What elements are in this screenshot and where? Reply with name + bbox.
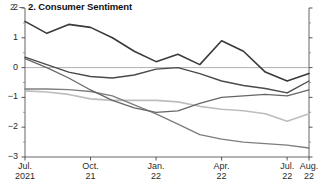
- x-tick-label: Jul.2021: [5, 161, 45, 181]
- series-line-series-5: [25, 91, 309, 121]
- series-line-series-3: [25, 59, 309, 113]
- chart-axes: [22, 8, 313, 161]
- x-tick-label-year: 22: [202, 171, 242, 181]
- chart-series: [25, 21, 309, 148]
- series-line-series-4: [25, 89, 309, 148]
- y-tick-label: 0: [2, 63, 18, 72]
- x-tick-label-month: Apr.: [202, 161, 242, 171]
- series-line-series-2: [25, 57, 309, 93]
- x-tick-label: Oct.21: [71, 161, 111, 181]
- x-tick-label: Aug.22: [289, 161, 319, 181]
- chart-panel: 2 – 2. Consumer Sentiment 210−1−2−3 Jul.…: [0, 0, 319, 193]
- x-tick-label: Apr.22: [202, 161, 242, 181]
- x-tick-label-month: Oct.: [71, 161, 111, 171]
- x-tick-label-month: Jul.: [5, 161, 45, 171]
- y-tick-label: −3: [2, 152, 18, 161]
- x-tick-label-year: 22: [136, 171, 176, 181]
- y-tick-label: −2: [2, 122, 18, 131]
- y-tick-label: 2: [2, 3, 18, 12]
- x-tick-label-year: 2021: [5, 171, 45, 181]
- y-tick-label: −1: [2, 92, 18, 101]
- y-tick-label: 1: [2, 33, 18, 42]
- x-tick-label-year: 22: [289, 171, 319, 181]
- x-tick-label-year: 21: [71, 171, 111, 181]
- x-tick-label-month: Aug.: [289, 161, 319, 171]
- x-tick-label-month: Jan.: [136, 161, 176, 171]
- x-tick-label: Jan.22: [136, 161, 176, 181]
